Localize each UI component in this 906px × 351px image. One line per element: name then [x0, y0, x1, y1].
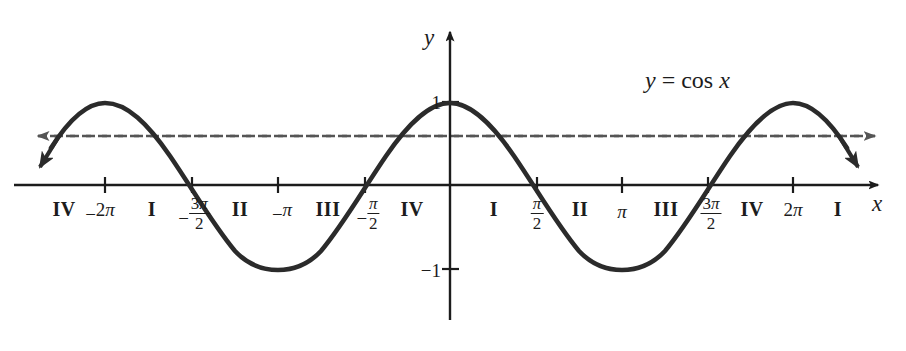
quadrant-label-6: I: [490, 199, 498, 219]
cosine-graph-figure: y x 1 −1 y = cos x −2π −3π2 −π −π2 π2 π …: [0, 0, 906, 351]
fraction: π2: [531, 195, 544, 234]
pi-symbol: π: [199, 194, 208, 213]
minus-sign: −: [85, 204, 96, 225]
quadrant-label-3: II: [232, 199, 249, 219]
denominator: 2: [367, 214, 380, 234]
minus-sign: −: [272, 204, 283, 225]
x-tick-label-minus-pi-over-2: −π2: [356, 196, 379, 235]
quadrant-label-2: I: [148, 199, 156, 219]
fraction: π2: [367, 195, 380, 234]
pi-symbol: π: [369, 194, 378, 213]
minus-sign: −: [356, 208, 367, 229]
y-tick-label-minus-1: −1: [421, 261, 441, 280]
x-tick-label-3pi-over-2: 3π2: [700, 196, 721, 235]
x-axis-label: x: [872, 192, 882, 215]
equation-equals: =: [662, 67, 676, 93]
equation-label: y = cos x: [645, 68, 730, 92]
quadrant-label-4: III: [316, 199, 341, 219]
minus-sign: −: [178, 208, 189, 229]
quadrant-label-9: IV: [740, 199, 763, 219]
pi-symbol: π: [105, 199, 115, 220]
denominator: 2: [189, 214, 210, 234]
numerator-coefficient: 3: [191, 194, 200, 213]
coefficient: 2: [96, 199, 106, 220]
x-tick-label-pi-over-2: π2: [531, 196, 544, 235]
quadrant-label-10: I: [834, 199, 842, 219]
x-tick-label-pi: π: [617, 202, 627, 221]
denominator: 2: [531, 214, 544, 234]
plot-canvas: [0, 0, 906, 351]
pi-symbol: π: [711, 194, 720, 213]
x-tick-label-2pi: 2π: [783, 200, 802, 219]
pi-symbol: π: [283, 199, 293, 220]
quadrant-label-5: IV: [400, 199, 423, 219]
equation-variable: x: [719, 67, 730, 93]
coefficient: 2: [783, 199, 793, 220]
quadrant-label-8: III: [654, 199, 679, 219]
pi-symbol: π: [533, 194, 542, 213]
x-tick-label-minus-2pi: −2π: [85, 200, 115, 219]
pi-symbol: π: [617, 201, 627, 222]
pi-symbol: π: [793, 199, 803, 220]
fraction: 3π2: [189, 195, 210, 234]
equation-function: cos: [681, 67, 713, 93]
y-tick-label-1: 1: [432, 93, 442, 112]
quadrant-label-7: II: [572, 199, 589, 219]
denominator: 2: [700, 214, 721, 234]
y-axis-label: y: [424, 26, 434, 49]
numerator-coefficient: 3: [702, 194, 711, 213]
x-tick-label-minus-3pi-over-2: −3π2: [178, 196, 210, 235]
x-tick-label-minus-pi: −π: [272, 200, 292, 219]
fraction: 3π2: [700, 195, 721, 234]
equation-y: y: [645, 67, 656, 93]
quadrant-label-1: IV: [52, 199, 75, 219]
